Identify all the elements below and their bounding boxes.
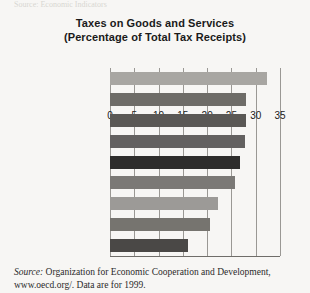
bar-row: Sweden: [110, 193, 280, 214]
chart-title: Taxes on Goods and Services: [0, 16, 310, 30]
bar-row: Germany: [110, 110, 280, 131]
source-line-2: www.oecd.org/. Data are for 1999.: [14, 280, 146, 290]
figure-container: Source: Economic Indicators Taxes on Goo…: [0, 0, 310, 293]
bar-united-kingdom: [110, 72, 267, 85]
bar-netherlands: [110, 93, 246, 106]
chart-subtitle: (Percentage of Total Tax Receipts): [0, 30, 310, 44]
bar-row: Italy: [110, 131, 280, 152]
gridline-35: [280, 68, 281, 256]
bar-canada: [110, 176, 235, 189]
plot-area: 05101520253035 United KingdomNetherlands…: [110, 68, 280, 256]
source-note: Source: Organization for Economic Cooper…: [14, 266, 298, 291]
bar-row: United States: [110, 235, 280, 256]
source-label: Source:: [14, 267, 43, 277]
bar-sweden: [110, 197, 218, 210]
cropped-header-text: Source: Economic Indicators: [14, 0, 164, 9]
bar-japan: [110, 218, 210, 231]
bar-row: United Kingdom: [110, 68, 280, 89]
bar-italy: [110, 135, 245, 148]
bar-row: Netherlands: [110, 89, 280, 110]
chart-title-block: Taxes on Goods and Services (Percentage …: [0, 16, 310, 44]
source-line-1: Organization for Economic Cooperation an…: [43, 267, 271, 277]
bar-france: [110, 156, 240, 169]
bar-row: Japan: [110, 214, 280, 235]
bar-germany: [110, 114, 246, 127]
axis-baseline: [110, 256, 280, 257]
bar-row: France: [110, 152, 280, 173]
bar-united-states: [110, 239, 188, 252]
chart-card: Taxes on Goods and Services (Percentage …: [0, 10, 310, 293]
bar-row: Canada: [110, 172, 280, 193]
